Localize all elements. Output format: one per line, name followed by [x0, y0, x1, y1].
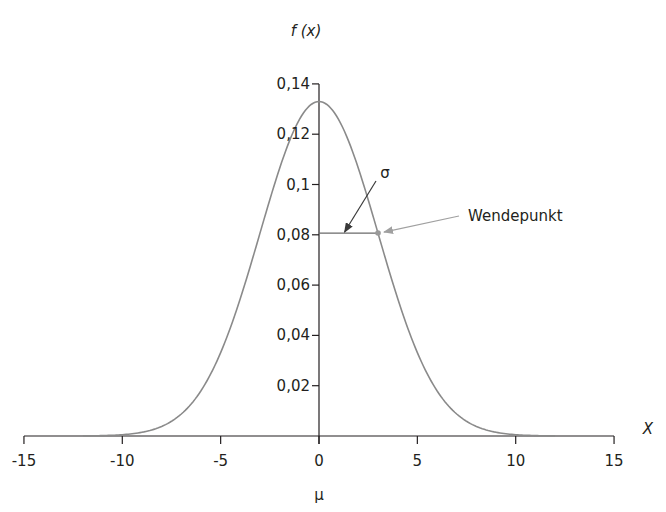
x-tick-label: -15 [12, 452, 37, 470]
y-tick-label: 0,02 [277, 377, 310, 395]
sigma-arrow [345, 181, 376, 232]
x-tick-label: 0 [314, 452, 324, 470]
x-tick-label: -10 [110, 452, 135, 470]
mu-label: μ [314, 486, 324, 504]
x-tick-label: 10 [506, 452, 525, 470]
sigma-label: σ [380, 164, 390, 182]
x-tick-label: -5 [213, 452, 228, 470]
labels: -15-10-50510150,020,040,060,080,10,120,1… [12, 22, 654, 504]
y-tick-label: 0,04 [277, 326, 310, 344]
y-tick-label: 0,14 [277, 75, 310, 93]
x-tick-label: 5 [413, 452, 423, 470]
y-tick-label: 0,12 [277, 125, 310, 143]
axes [24, 84, 614, 444]
wendepunkt-arrow [384, 216, 459, 232]
x-tick-label: 15 [605, 452, 624, 470]
wendepunkt-label: Wendepunkt [468, 207, 563, 225]
annotations [319, 181, 459, 236]
x-axis-title: X [642, 420, 654, 438]
y-tick-label: 0,08 [277, 226, 310, 244]
inflection-point-marker [375, 230, 381, 236]
y-tick-label: 0,06 [277, 276, 310, 294]
y-tick-label: 0,1 [286, 176, 310, 194]
normal-distribution-chart: -15-10-50510150,020,040,060,080,10,120,1… [0, 0, 666, 512]
y-axis-title: f (x) [291, 22, 322, 40]
